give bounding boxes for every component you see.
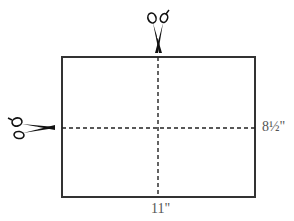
scissors-icon [147,10,170,53]
width-label: 11" [151,201,170,217]
scissors-icon [8,117,55,139]
paper-cut-diagram [0,0,294,221]
height-label: 8½" [262,119,285,135]
